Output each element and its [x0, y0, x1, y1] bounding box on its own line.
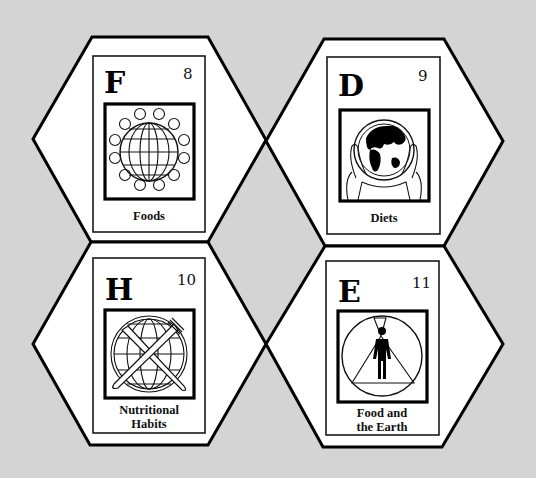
- tile-label-line-1: Nutritional: [119, 403, 179, 417]
- tile-label: Foods: [133, 209, 165, 223]
- tile-number: 11: [412, 274, 431, 292]
- tile-label: Diets: [370, 211, 397, 225]
- tile-diets[interactable]: D 9 Diets: [266, 39, 503, 246]
- tile-letter: D: [338, 68, 364, 103]
- tile-letter: E: [338, 274, 361, 309]
- tile-number: 10: [177, 271, 196, 289]
- hex-tile-board: F 8 Foods: [0, 0, 536, 478]
- tile-letter: H: [105, 272, 133, 307]
- tile-number: 8: [183, 65, 193, 83]
- tile-label-line-1: Food and: [357, 406, 407, 420]
- tile-letter: F: [104, 65, 125, 100]
- tile-label-line-2: Habits: [131, 417, 167, 431]
- tile-number: 9: [418, 67, 428, 85]
- tile-food-and-the-earth[interactable]: E 11 Food and the Earth: [266, 246, 503, 447]
- tile-foods[interactable]: F 8 Foods: [33, 37, 266, 242]
- tile-label-line-2: the Earth: [356, 420, 407, 434]
- tile-nutritional-habits[interactable]: H 10 Nutritional Habits: [33, 242, 266, 445]
